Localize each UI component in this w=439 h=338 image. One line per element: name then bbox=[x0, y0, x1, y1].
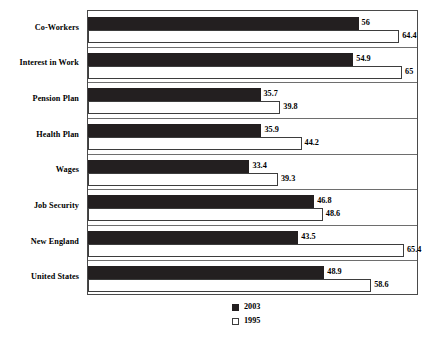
bar-value-2003: 35.7 bbox=[264, 90, 278, 98]
category-axis-labels: Co-WorkersInterest in WorkPension PlanHe… bbox=[0, 10, 83, 295]
bar-1995 bbox=[88, 137, 302, 150]
legend-item: 1995 bbox=[232, 317, 260, 325]
band-separator bbox=[88, 82, 417, 83]
bar-1995 bbox=[88, 244, 404, 257]
bar-value-1995: 44.2 bbox=[305, 139, 319, 147]
band-separator bbox=[88, 154, 417, 155]
legend-label: 1995 bbox=[244, 317, 260, 325]
category-label: Interest in Work bbox=[0, 59, 83, 67]
bar-value-2003: 46.8 bbox=[317, 197, 331, 205]
category-label: New England bbox=[0, 238, 83, 246]
bar-value-2003: 33.4 bbox=[252, 162, 266, 170]
bar-1995 bbox=[88, 66, 402, 79]
bar-1995 bbox=[88, 101, 280, 114]
bar-value-2003: 43.5 bbox=[301, 233, 315, 241]
bar-value-2003: 56 bbox=[362, 19, 370, 27]
bar-2003 bbox=[88, 124, 261, 137]
chart-legend: 20031995 bbox=[0, 303, 439, 335]
band-separator bbox=[88, 47, 417, 48]
horizontal-bar-chart: Co-WorkersInterest in WorkPension PlanHe… bbox=[0, 0, 439, 338]
category-label: Health Plan bbox=[0, 131, 83, 139]
bar-value-1995: 65.4 bbox=[407, 246, 421, 254]
bar-2003 bbox=[88, 17, 359, 30]
category-label: Job Security bbox=[0, 202, 83, 210]
legend-label: 2003 bbox=[244, 303, 260, 311]
bar-value-2003: 35.9 bbox=[264, 126, 278, 134]
band-separator bbox=[88, 225, 417, 226]
bar-value-1995: 58.6 bbox=[374, 281, 388, 289]
legend-item: 2003 bbox=[232, 303, 260, 311]
bar-2003 bbox=[88, 88, 261, 101]
bar-1995 bbox=[88, 208, 323, 221]
bar-1995 bbox=[88, 173, 278, 186]
bar-2003 bbox=[88, 195, 314, 208]
bar-value-1995: 39.3 bbox=[281, 175, 295, 183]
plot-area: 5664.454.96535.739.835.944.233.439.346.8… bbox=[87, 10, 418, 295]
category-label: Pension Plan bbox=[0, 95, 83, 103]
band-separator bbox=[88, 189, 417, 190]
bar-value-1995: 64.4 bbox=[402, 32, 416, 40]
bar-2003 bbox=[88, 160, 249, 173]
bar-value-1995: 65 bbox=[405, 68, 413, 76]
band-separator bbox=[88, 118, 417, 119]
band-separator bbox=[88, 260, 417, 261]
bar-2003 bbox=[88, 266, 324, 279]
bar-2003 bbox=[88, 231, 298, 244]
bar-2003 bbox=[88, 53, 353, 66]
category-label: United States bbox=[0, 273, 83, 281]
category-label: Co-Workers bbox=[0, 24, 83, 32]
bar-value-2003: 48.9 bbox=[327, 268, 341, 276]
bar-1995 bbox=[88, 279, 371, 292]
category-label: Wages bbox=[0, 166, 83, 174]
bar-value-1995: 39.8 bbox=[283, 103, 297, 111]
filled-square-icon bbox=[232, 304, 239, 311]
bar-value-1995: 48.6 bbox=[326, 210, 340, 218]
open-square-icon bbox=[232, 318, 239, 325]
bar-1995 bbox=[88, 30, 399, 43]
bar-value-2003: 54.9 bbox=[356, 55, 370, 63]
